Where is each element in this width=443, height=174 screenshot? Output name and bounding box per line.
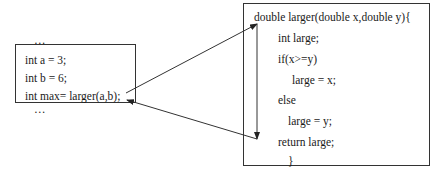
call-arrow xyxy=(126,24,257,93)
return-arrow xyxy=(127,100,257,139)
arrows-layer xyxy=(0,0,443,174)
